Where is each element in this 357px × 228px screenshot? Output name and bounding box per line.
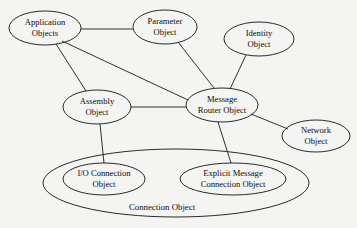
explicit-message-connection-object-label-line1: Explicit Message: [203, 168, 263, 178]
parameter-object-label-line2: Object: [154, 27, 178, 37]
edge-application-objects-to-assembly-object: [56, 44, 86, 91]
io-connection-object-label-line1: I/O Connection: [77, 168, 131, 178]
node-assembly-object[interactable]: Assembly Object: [63, 90, 131, 124]
identity-object-label-line2: Object: [248, 39, 272, 49]
diagram-canvas: Connection Object Application Objects Pa…: [0, 0, 357, 228]
application-objects-label-line1: Application: [25, 17, 66, 27]
message-router-object-label-line2: Router Object: [198, 105, 247, 115]
io-connection-object-label-line2: Object: [93, 179, 117, 189]
network-object-label-line1: Network: [301, 125, 332, 135]
edge-identity-object-to-message-router-object: [230, 55, 246, 89]
object-model-diagram: Connection Object Application Objects Pa…: [0, 0, 357, 228]
node-io-connection-object[interactable]: I/O Connection Object: [63, 163, 145, 195]
node-parameter-object[interactable]: Parameter Object: [133, 10, 197, 44]
node-explicit-message-connection-object[interactable]: Explicit Message Connection Object: [180, 163, 286, 195]
application-objects-label-line2: Objects: [32, 28, 59, 38]
message-router-object-label-line1: Message: [207, 94, 237, 104]
group-connection-object[interactable]: Connection Object: [43, 149, 309, 217]
edge-message-router-object-to-network-object: [251, 114, 288, 129]
network-object-label-line2: Object: [305, 136, 329, 146]
parameter-object-label-line1: Parameter: [148, 16, 183, 26]
assembly-object-label-line1: Assembly: [80, 96, 115, 106]
node-message-router-object[interactable]: Message Router Object: [186, 88, 258, 122]
edge-message-router-object-to-explicit-message-connection-object: [218, 122, 231, 163]
connection-object-group-label: Connection Object: [129, 202, 196, 212]
assembly-object-label-line2: Object: [86, 107, 110, 117]
edge-assembly-object-to-io-connection-object: [100, 124, 104, 163]
node-identity-object[interactable]: Identity Object: [224, 22, 294, 56]
node-application-objects[interactable]: Application Objects: [9, 11, 81, 45]
edge-parameter-object-to-message-router-object: [178, 42, 214, 88]
identity-object-label-line1: Identity: [246, 28, 273, 38]
node-network-object[interactable]: Network Object: [282, 120, 350, 152]
edge-application-objects-to-message-router-object: [62, 41, 188, 100]
explicit-message-connection-object-label-line2: Connection Object: [201, 179, 266, 189]
